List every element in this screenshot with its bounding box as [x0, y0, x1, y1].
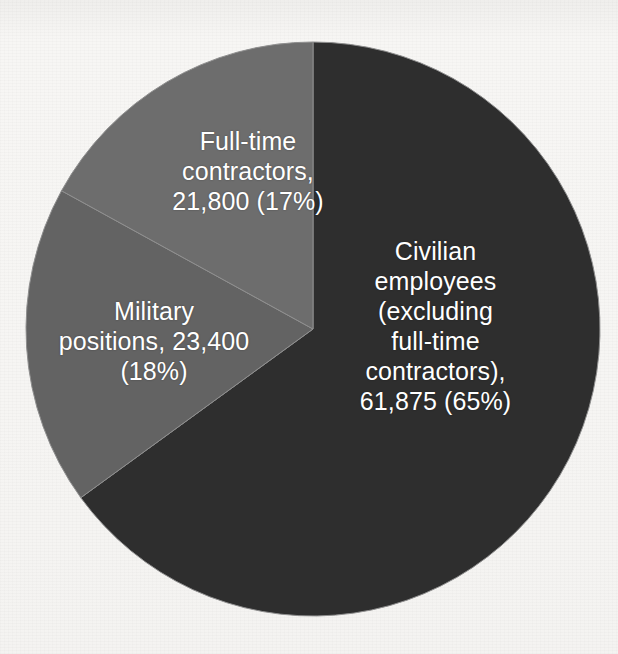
pie-slice-label-full-time-contractors: Full-time contractors, 21,800 (17%)	[148, 126, 348, 216]
pie-slice-label-civilian-employees: Civilian employees (excluding full-time …	[333, 236, 538, 416]
pie-chart: Civilian employees (excluding full-time …	[0, 0, 618, 654]
pie-slice-label-military-positions: Military positions, 23,400 (18%)	[38, 296, 270, 386]
